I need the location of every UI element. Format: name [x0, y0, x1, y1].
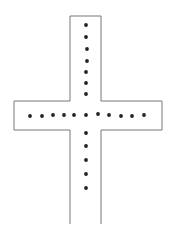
vertical-dot	[85, 59, 89, 63]
horizontal-dot	[142, 113, 146, 117]
horizontal-dot	[96, 112, 100, 116]
vertical-dot	[84, 131, 88, 135]
horizontal-dot	[119, 114, 123, 118]
vertical-dot	[84, 81, 88, 85]
horizontal-dot	[84, 113, 88, 117]
vertical-dot	[84, 158, 88, 162]
vertical-dot	[84, 172, 88, 176]
horizontal-dot	[107, 113, 111, 117]
cross-diagram	[0, 0, 172, 238]
cross-outline	[14, 16, 162, 224]
cross-outline-right	[70, 16, 162, 224]
vertical-dot	[85, 47, 89, 51]
vertical-dot	[84, 92, 88, 96]
horizontal-dot	[130, 114, 134, 118]
vertical-dot	[84, 23, 88, 27]
vertical-dot	[84, 70, 88, 74]
horizontal-dot	[72, 113, 76, 117]
vertical-dot	[84, 35, 88, 39]
horizontal-dot	[40, 114, 44, 118]
horizontal-dot	[51, 113, 55, 117]
vertical-dot	[84, 186, 88, 190]
horizontal-dot	[28, 114, 32, 118]
dots-group	[28, 23, 146, 190]
vertical-dot	[84, 144, 88, 148]
horizontal-dot	[62, 113, 66, 117]
cross-outline-left	[14, 16, 70, 224]
